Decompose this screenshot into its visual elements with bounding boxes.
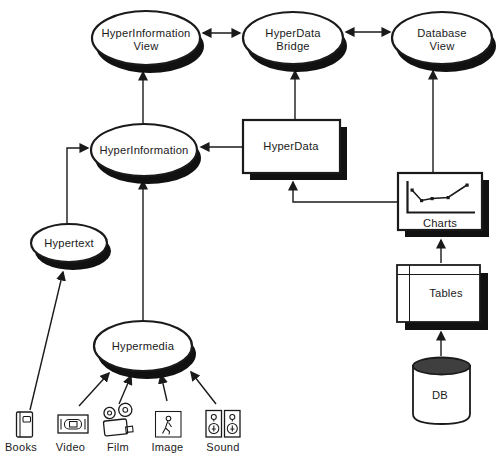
connectors (30, 32, 441, 410)
diagram-canvas: HyperInformation View HyperData Bridge D… (0, 0, 504, 464)
arrow-video-to-hypermedia (79, 373, 109, 406)
media-label: Sound (206, 441, 239, 453)
chart-point (431, 197, 434, 200)
media-film: Film (102, 403, 135, 453)
node-hyperdata: HyperData (243, 120, 347, 180)
arrow-image-to-hypermedia (161, 375, 167, 401)
hypermedia-architecture-diagram: HyperInformation View HyperData Bridge D… (0, 0, 504, 464)
media-image: Image (151, 412, 183, 454)
media-label: Image (151, 441, 183, 453)
node-label: DB (432, 389, 448, 401)
node-hypermedia: Hypermedia (94, 321, 196, 379)
node-label: HyperInformation (101, 27, 190, 39)
node-hyperinformation: HyperInformation (91, 124, 201, 184)
node-database-view: Database View (392, 12, 496, 72)
media-label: Books (5, 441, 37, 453)
node-charts: Charts (398, 173, 489, 237)
video-cassette-icon (58, 415, 88, 433)
arrow-hypertext-to-hyperinformation (67, 148, 88, 224)
node-hyperinformation-view: HyperInformation View (92, 11, 204, 73)
image-figure-icon (156, 412, 182, 438)
node-label: Bridge (276, 40, 310, 52)
node-label: Hypertext (44, 237, 94, 249)
media-label: Video (56, 441, 85, 453)
film-camera-icon (102, 403, 135, 437)
arrow-film-to-hypermedia (119, 376, 131, 404)
media-label: Film (107, 441, 129, 453)
speakers-icon (206, 411, 240, 438)
node-hyperdata-bridge: HyperData Bridge (243, 12, 347, 72)
cylinder-top (413, 358, 470, 375)
node-label: Hypermedia (112, 340, 175, 352)
chart-point (420, 199, 423, 202)
node-label: View (134, 40, 160, 52)
arrow-books-to-hypertext (30, 272, 63, 410)
arrow-charts-to-hyperdata (293, 182, 397, 202)
node-label: HyperData (263, 140, 319, 152)
media-sound: Sound (206, 411, 240, 454)
node-hypertext: Hypertext (31, 224, 111, 270)
media-video: Video (56, 415, 88, 453)
book-icon (17, 412, 33, 437)
chart-point (466, 184, 469, 187)
node-label: HyperInformation (99, 144, 188, 156)
node-label: HyperData (265, 27, 321, 39)
node-label: View (430, 40, 456, 52)
node-tables: Tables (397, 265, 488, 330)
node-label: Tables (429, 287, 463, 299)
chart-point (411, 189, 414, 192)
chart-point (447, 196, 450, 199)
node-label: Database (417, 27, 467, 39)
media-books: Books (5, 412, 37, 453)
node-db: DB (413, 358, 470, 425)
node-label: Charts (423, 217, 457, 229)
arrow-sound-to-hypermedia (191, 372, 216, 404)
